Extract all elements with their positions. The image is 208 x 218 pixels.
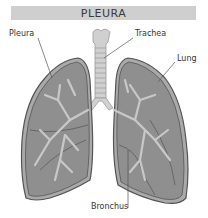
right-lung <box>114 58 189 203</box>
label-lung: Lung <box>177 54 197 63</box>
left-lung <box>22 58 93 200</box>
label-pleura: Pleura <box>9 29 34 38</box>
label-trachea: Trachea <box>135 29 166 38</box>
pleura-diagram: PLEURA <box>0 0 208 218</box>
label-bronchus: Bronchus <box>91 202 128 211</box>
trachea <box>88 29 113 110</box>
